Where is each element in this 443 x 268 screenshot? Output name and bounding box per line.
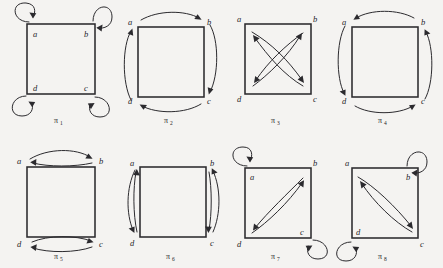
diagram-caption: π xyxy=(271,252,275,261)
diagram-caption-subscript: 3 xyxy=(277,120,280,126)
diagram-caption: π xyxy=(378,252,382,261)
vertex-label-c: c xyxy=(84,83,88,93)
square-outline xyxy=(140,167,206,237)
arrow-d-to-b xyxy=(252,180,304,233)
diagram-pi-1: a b c d π 1 xyxy=(12,3,112,126)
vertex-label-c: c xyxy=(300,227,304,237)
diagram-caption: π xyxy=(54,116,58,125)
diagram-caption: π xyxy=(54,252,58,261)
diagram-pi-3: a b c d π 3 xyxy=(237,14,317,126)
square-outline xyxy=(352,27,418,97)
arrow-d-to-b xyxy=(253,33,302,86)
arrow-b-to-d xyxy=(254,33,303,83)
vertex-label-b: b xyxy=(313,158,317,168)
arrow-b-to-c xyxy=(208,25,217,95)
arrow-a-to-b xyxy=(141,12,202,20)
vertex-label-b: b xyxy=(207,17,211,27)
diagram-caption-subscript: 7 xyxy=(277,256,280,262)
diagram-caption-subscript: 1 xyxy=(60,120,63,126)
arrow-b-to-a xyxy=(353,11,414,20)
vertex-label-b: b xyxy=(421,17,425,27)
vertex-label-a: a xyxy=(128,17,132,27)
vertex-label-b: b xyxy=(84,29,88,39)
vertex-label-d: d xyxy=(128,96,133,106)
diagram-pi-7: a b c d π 7 xyxy=(233,147,327,262)
arrow-a-to-c xyxy=(358,177,413,229)
vertex-label-c: c xyxy=(210,238,214,248)
arrow-c-to-a xyxy=(360,181,412,232)
diagram-caption-subscript: 6 xyxy=(172,256,175,262)
vertex-label-c: c xyxy=(313,94,317,104)
diagram-caption-subscript: 8 xyxy=(384,256,387,262)
diagram-pi-2: a b c d π 2 xyxy=(124,12,217,126)
arrow-c-to-b xyxy=(212,168,219,232)
arrow-c-to-d xyxy=(30,244,92,251)
vertex-label-a: a xyxy=(237,14,241,24)
vertex-label-a: a xyxy=(33,29,37,39)
vertex-label-b: b xyxy=(406,172,410,182)
square-outline xyxy=(27,167,95,237)
diagram-caption-subscript: 5 xyxy=(60,256,63,262)
vertex-label-d: d xyxy=(130,238,135,248)
self-loop-d xyxy=(337,242,360,261)
vertex-label-a: a xyxy=(342,17,346,27)
diagram-caption: π xyxy=(166,252,170,261)
vertex-label-c: c xyxy=(421,96,425,106)
vertex-label-b: b xyxy=(99,156,103,166)
vertex-label-d: d xyxy=(356,227,361,237)
arrow-b-to-a xyxy=(30,159,92,166)
vertex-label-d: d xyxy=(342,96,347,106)
vertex-label-d: d xyxy=(33,83,38,93)
vertex-label-a: a xyxy=(17,156,21,166)
vertex-label-a: a xyxy=(250,172,254,182)
vertex-label-a: a xyxy=(345,158,349,168)
arrow-d-to-c xyxy=(355,104,416,112)
diagram-pi-4: a b c d π 4 xyxy=(338,11,432,126)
vertex-label-c: c xyxy=(99,239,103,249)
arrow-c-to-b xyxy=(424,29,431,99)
vertex-label-d: d xyxy=(237,239,242,249)
diagram-pi-5: a b c d π 5 xyxy=(17,150,103,262)
square-outline xyxy=(138,27,204,97)
self-loop-a xyxy=(233,147,253,166)
vertex-label-c: c xyxy=(420,239,424,249)
diagram-pi-8: a b c d π 8 xyxy=(337,152,427,262)
diagram-caption: π xyxy=(271,116,275,125)
self-loop-a xyxy=(15,3,36,22)
arrow-a-to-d xyxy=(338,26,345,96)
vertex-label-c: c xyxy=(207,96,211,106)
diagram-caption: π xyxy=(164,116,168,125)
diagram-caption-subscript: 4 xyxy=(384,120,387,126)
arrow-d-to-a xyxy=(133,169,140,232)
arrow-c-to-d xyxy=(140,104,201,112)
vertex-label-b: b xyxy=(210,158,214,168)
permutation-diagram-figure: a b c d π 1 a b c d π 2 xyxy=(0,0,443,268)
vertex-label-a: a xyxy=(130,158,134,168)
arrow-b-to-d xyxy=(253,178,303,231)
diagram-pi-6: a b c d π 6 xyxy=(128,158,219,262)
self-loop-c xyxy=(306,240,328,259)
arrow-a-to-b xyxy=(30,150,93,159)
vertex-label-d: d xyxy=(237,94,242,104)
diagram-caption: π xyxy=(378,116,382,125)
self-loop-c xyxy=(88,97,110,117)
arrow-d-to-a xyxy=(124,28,133,100)
self-loop-b xyxy=(93,7,112,32)
self-loop-d xyxy=(12,96,35,116)
diagram-caption-subscript: 2 xyxy=(170,120,173,126)
vertex-label-b: b xyxy=(313,14,317,24)
vertex-label-d: d xyxy=(17,239,22,249)
